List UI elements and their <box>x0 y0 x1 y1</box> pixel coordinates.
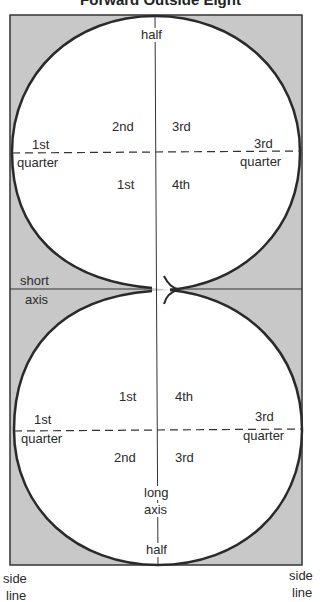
bottom-left-quarter-2: quarter <box>21 432 62 446</box>
top-quadrant-1st: 1st <box>117 178 134 192</box>
side-line-left-2: line <box>6 589 26 602</box>
top-right-quarter-1: 3rd <box>254 137 273 151</box>
bottom-half-label: half <box>145 543 168 557</box>
top-quadrant-2nd: 2nd <box>112 120 134 134</box>
bottom-right-quarter-2: quarter <box>243 429 284 443</box>
side-line-left-1: side <box>3 572 27 586</box>
bottom-quadrant-4th: 4th <box>175 390 193 404</box>
top-half-label: half <box>140 28 163 42</box>
bottom-left-quarter-1: 1st <box>34 413 51 427</box>
short-axis-label-1: short <box>20 274 49 288</box>
long-axis-label-2: axis <box>143 503 168 517</box>
long-axis-label-1: long <box>143 486 170 500</box>
bottom-quadrant-1st: 1st <box>119 390 136 404</box>
bottom-right-quarter-1: 3rd <box>255 410 274 424</box>
top-left-quarter-2: quarter <box>17 156 58 170</box>
top-left-quarter-1: 1st <box>32 138 49 152</box>
top-quadrant-3rd: 3rd <box>172 120 191 134</box>
top-right-quarter-2: quarter <box>240 155 281 169</box>
top-quadrant-4th: 4th <box>172 178 190 192</box>
bottom-quadrant-2nd: 2nd <box>114 451 136 465</box>
side-line-right-1: side <box>289 569 313 583</box>
side-line-right-2: line <box>292 586 312 600</box>
bottom-quadrant-3rd: 3rd <box>175 451 194 465</box>
short-axis-label-2: axis <box>25 293 48 307</box>
